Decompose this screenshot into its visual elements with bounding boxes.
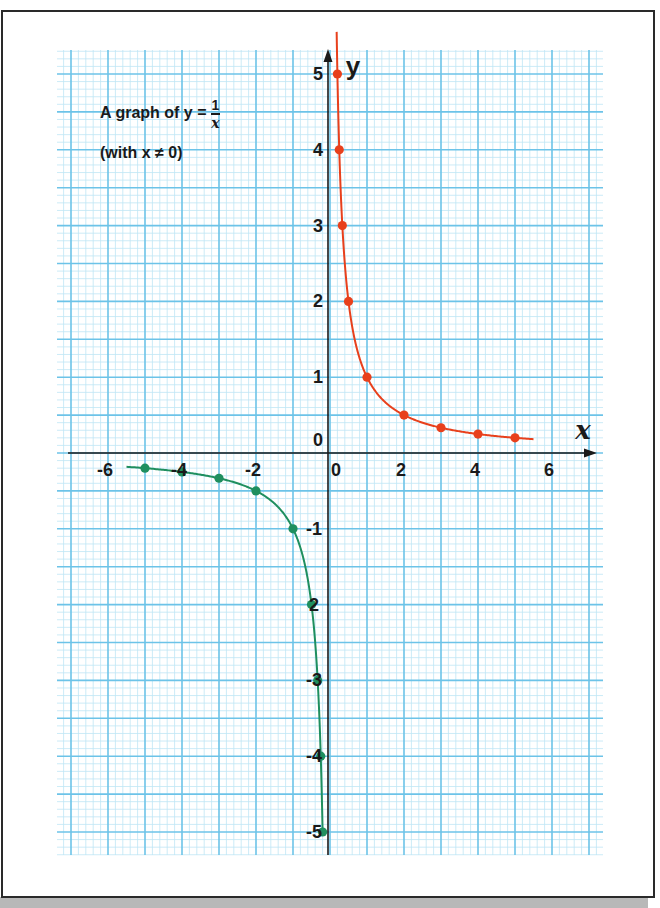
x-tick-label: -4 [171,460,187,481]
fraction-one-over-x: 1x [211,98,221,130]
graph-plot [0,0,660,908]
chart-subtitle: (with x ≠ 0) [100,144,183,162]
data-point [214,474,223,483]
y-tick-label: 2 [309,594,319,615]
fraction-numerator: 1 [211,98,221,115]
data-point [335,145,344,154]
x-tick-label: 4 [470,460,480,481]
y-tick-label: -3 [306,670,322,691]
data-point [251,486,260,495]
y-tick-label: -4 [306,746,322,767]
fraction-denominator: x [211,115,221,130]
y-tick-label: -5 [306,822,322,843]
data-point [288,524,297,533]
data-point [344,297,353,306]
y-tick-label: 1 [313,367,323,388]
data-point [473,429,482,438]
data-point [333,69,342,78]
data-point [140,464,149,473]
data-point [338,221,347,230]
data-point [510,433,519,442]
x-axis-arrow-icon [584,449,597,458]
y-axis-label: y [346,51,360,82]
axes [68,49,597,855]
y-tick-label: -1 [306,518,322,539]
data-point [362,373,371,382]
y-tick-label: 3 [313,215,323,236]
x-tick-label: 0 [331,460,341,481]
x-tick-label: -6 [97,460,113,481]
y-tick-label: 4 [313,139,323,160]
chart-title: A graph of y =1x [100,98,220,130]
title-prefix: A graph of y = [100,104,207,121]
x-axis-label: x [575,415,591,445]
x-tick-label: 2 [396,460,406,481]
x-tick-label: 6 [544,460,554,481]
data-point [399,411,408,420]
y-tick-label: 0 [313,430,323,451]
data-point [436,423,445,432]
x-tick-label: -2 [245,460,261,481]
y-tick-label: 2 [313,291,323,312]
y-tick-label: 5 [313,64,323,85]
